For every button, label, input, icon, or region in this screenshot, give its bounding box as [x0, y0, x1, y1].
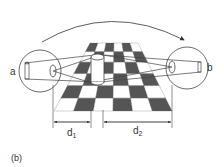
eye-left-label: a [10, 66, 16, 77]
board-square [114, 43, 123, 52]
distance-2-label: d2 [133, 125, 143, 137]
cylinder-object [91, 54, 104, 85]
eye-right [166, 47, 208, 89]
eye-left [19, 50, 61, 92]
distance-1-label: d1 [67, 127, 77, 139]
retinal-image-left [25, 63, 29, 79]
panel-label: (b) [11, 153, 22, 163]
diagram: a b d1 d2 (b) [0, 0, 224, 167]
board-square [113, 98, 133, 111]
movement-arrow [42, 21, 184, 42]
eye-right-label: b [207, 62, 213, 73]
board-square [114, 62, 127, 73]
board-square [113, 86, 130, 98]
board-square [93, 98, 113, 111]
board-square [148, 98, 172, 111]
board-square [104, 43, 114, 52]
retinal-image-right [198, 62, 201, 72]
eyeball-right [166, 47, 208, 89]
board-square [96, 86, 114, 98]
